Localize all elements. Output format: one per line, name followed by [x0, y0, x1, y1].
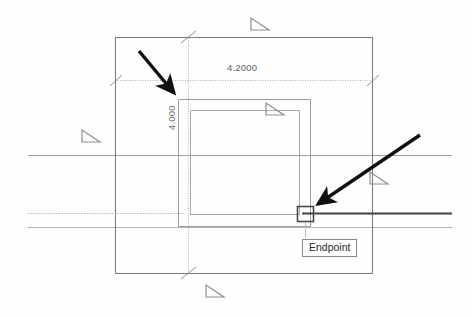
horizontal-dimension-label[interactable]: 4.2000	[227, 62, 257, 73]
inner-rectangles[interactable]	[179, 100, 311, 227]
annotation-arrow-upper-left	[139, 51, 174, 93]
cad-drawing[interactable]	[0, 0, 472, 317]
annotation-arrow-lower-right	[318, 135, 420, 204]
grip-top[interactable]	[251, 18, 269, 30]
grip-bottom[interactable]	[206, 285, 224, 297]
horizontal-dimension-group[interactable]	[110, 72, 379, 95]
annotation-arrow-lower-right-shaft	[318, 135, 420, 204]
grip-left[interactable]	[82, 130, 100, 142]
construction-lines	[28, 156, 452, 228]
annotation-arrow-upper-left-shaft	[139, 51, 174, 93]
vertical-dimension-label[interactable]: 4.000	[166, 105, 177, 130]
cad-viewport[interactable]: 4.2000 4.000 Endpoint	[0, 0, 472, 317]
inner-rectangle-inner-path[interactable]	[191, 111, 300, 215]
grip-inner[interactable]	[266, 103, 284, 115]
endpoint-tooltip: Endpoint	[302, 239, 357, 257]
inner-rectangle-outer-path[interactable]	[179, 100, 311, 227]
